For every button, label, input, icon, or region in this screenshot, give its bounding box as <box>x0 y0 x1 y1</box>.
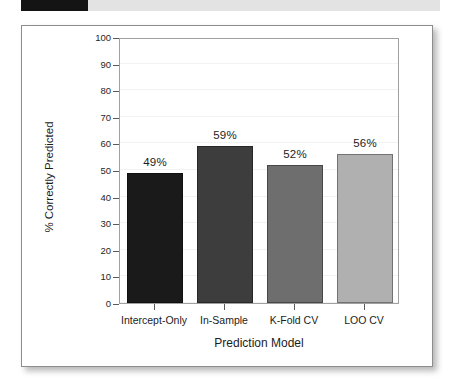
y-axis-tick-label: 90 <box>100 60 111 70</box>
y-axis-tick-mark <box>113 65 119 66</box>
y-axis-tick-label: 20 <box>100 246 111 256</box>
bar-value-label: 56% <box>337 137 393 149</box>
header-redaction-block <box>21 0 88 11</box>
y-axis-tick-label: 40 <box>100 193 111 203</box>
bar-value-label: 59% <box>197 129 253 141</box>
y-axis-tick-label: 50 <box>100 166 111 176</box>
y-axis-tick-label: 0 <box>106 299 111 309</box>
plot-panel: 49%59%52%56% <box>119 38 399 304</box>
x-axis-tick-label: Intercept-Only <box>121 314 187 326</box>
bar-slot: 52% <box>267 39 323 303</box>
y-axis-tick-mark <box>113 91 119 92</box>
bar[interactable] <box>267 165 323 303</box>
y-axis-tick-mark <box>113 304 119 305</box>
x-axis-tick-label: LOO CV <box>344 314 384 326</box>
bar-chart: 49%59%52%56% 0102030405060708090100 % Co… <box>22 26 432 366</box>
bar-value-label: 52% <box>267 148 323 160</box>
x-axis-tick-mark <box>294 304 295 310</box>
y-axis-tick-label: 70 <box>100 113 111 123</box>
x-axis-title: Prediction Model <box>119 336 399 350</box>
y-axis-tick-label: 60 <box>100 140 111 150</box>
bar-slot: 49% <box>127 39 183 303</box>
x-axis-tick-label: In-Sample <box>200 314 248 326</box>
figure-card: 49%59%52%56% 0102030405060708090100 % Co… <box>21 25 433 367</box>
y-axis-tick-label: 30 <box>100 219 111 229</box>
y-axis-tick-labels: 0102030405060708090100 <box>82 38 111 304</box>
bar-slot: 59% <box>197 39 253 303</box>
y-axis-tick-label: 80 <box>100 86 111 96</box>
y-axis-tick-mark <box>113 118 119 119</box>
header-strip <box>21 0 440 11</box>
bar-slot: 56% <box>337 39 393 303</box>
bar[interactable] <box>337 154 393 303</box>
y-axis-title: % Correctly Predicted <box>43 87 55 267</box>
x-axis-tick-mark <box>154 304 155 310</box>
x-axis-tick-label: K-Fold CV <box>270 314 318 326</box>
x-axis-tick-mark <box>224 304 225 310</box>
x-axis-tick-mark <box>364 304 365 310</box>
y-axis-tick-mark <box>113 171 119 172</box>
y-axis-tick-mark <box>113 251 119 252</box>
y-axis-tick-mark <box>113 144 119 145</box>
bar-value-label: 49% <box>127 156 183 168</box>
y-axis-tick-label: 100 <box>95 33 111 43</box>
bars-layer: 49%59%52%56% <box>120 39 398 303</box>
y-axis-tick-mark <box>113 198 119 199</box>
y-axis-tick-mark <box>113 224 119 225</box>
y-axis-tick-label: 10 <box>100 273 111 283</box>
y-axis-tick-mark <box>113 38 119 39</box>
bar[interactable] <box>127 173 183 303</box>
bar[interactable] <box>197 146 253 303</box>
y-axis-tick-mark <box>113 277 119 278</box>
